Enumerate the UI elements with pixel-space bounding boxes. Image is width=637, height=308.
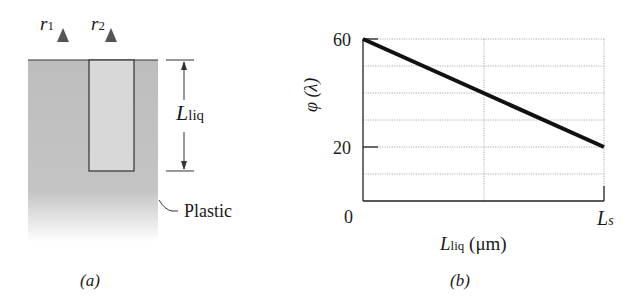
x-tick-ls-symbol: L	[597, 207, 608, 229]
plastic-label: Plastic	[184, 202, 232, 220]
liquid-length-label: Lliq	[176, 102, 204, 124]
y-tick-20: 20	[333, 139, 351, 157]
ray-1-label: r1	[40, 14, 54, 33]
ray-2-subscript: 2	[98, 18, 104, 33]
x-axis-unit: (μm)	[464, 233, 506, 254]
x-tick-ls-subscript: s	[608, 213, 613, 228]
figure: r1 r2 Lliq Plastic (a) 60 20 0 Ls φ (λ) …	[0, 0, 637, 308]
figure-graphics	[0, 0, 637, 308]
caption-b: (b)	[450, 272, 470, 289]
x-tick-ls: Ls	[597, 208, 614, 228]
x-axis-label: Lliq (μm)	[440, 234, 507, 253]
x-axis-subscript: liq	[451, 238, 465, 253]
chart-grid	[363, 39, 604, 201]
ray-1-subscript: 1	[47, 18, 53, 33]
caption-a: (a)	[80, 272, 100, 289]
y-axis-label: φ (λ)	[302, 78, 320, 112]
x-tick-zero: 0	[344, 208, 353, 226]
liquid-length-symbol: L	[176, 100, 188, 125]
x-axis-symbol: L	[440, 233, 451, 254]
plastic-leader-line	[159, 200, 178, 211]
y-tick-60: 60	[333, 31, 351, 49]
liquid-length-subscript: liq	[188, 107, 204, 123]
ray-2-label: r2	[91, 14, 105, 33]
